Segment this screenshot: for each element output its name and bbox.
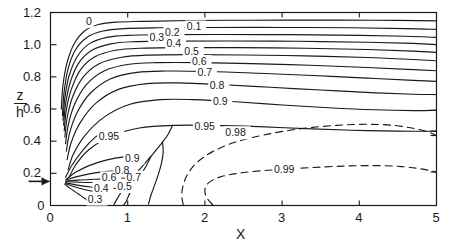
x-tick-label: 3: [278, 211, 285, 224]
contour-label-0.4-lower: 0.4: [94, 183, 109, 194]
contour-label-0.95-upper: 0.95: [194, 121, 214, 132]
contour-label-0: 0: [86, 16, 92, 27]
contour-label-0.6: 0.6: [192, 56, 207, 67]
contour-label-0.95-lower: 0.95: [99, 131, 119, 142]
x-tick-label: 5: [433, 211, 440, 224]
y-tick-label: 0.8: [23, 70, 41, 83]
y-tick-label: 1.0: [23, 38, 41, 51]
x-tick-label: 2: [201, 211, 208, 224]
plot-canvas: [0, 0, 451, 249]
y-tick-label: 0.6: [23, 102, 41, 115]
contour-label-0.9-lower: 0.9: [125, 153, 140, 164]
contour-line-0.5: [65, 55, 437, 138]
contour-label-0.4: 0.4: [167, 38, 182, 49]
x-axis-title: X: [236, 227, 245, 241]
contour-plot-figure: z h X 01234500.20.40.60.81.01.200.10.20.…: [0, 0, 451, 249]
x-tick-label: 1: [124, 211, 131, 224]
contour-label-0.98: 0.98: [225, 127, 245, 138]
contour-label-0.3: 0.3: [150, 32, 165, 43]
y-tick-label: 1.2: [23, 6, 41, 19]
contour-lines: [61, 15, 436, 206]
contour-line-0.99: [205, 166, 437, 205]
y-tick-label: 0: [37, 199, 44, 212]
contour-label-0.1: 0.1: [187, 21, 202, 32]
contour-line-0.98: [182, 124, 437, 204]
contour-label-0.8: 0.8: [210, 80, 225, 91]
contour-label-0.7: 0.7: [197, 67, 212, 78]
contour-label-0.2: 0.2: [165, 27, 180, 38]
contour-label-0.3-lower: 0.3: [88, 194, 103, 205]
x-tick-label: 4: [355, 211, 362, 224]
contour-line-0.8: [67, 83, 436, 160]
contour-line-0.3: [64, 41, 437, 125]
y-tick-label: 0.2: [23, 166, 41, 179]
y-tick-label: 0.4: [23, 134, 41, 147]
contour-line-0: [61, 20, 436, 109]
contour-label-0.9: 0.9: [213, 96, 228, 107]
arrow-head: [42, 177, 50, 185]
x-tick-label: 0: [47, 211, 54, 224]
contour-label-0.5-lower: 0.5: [117, 181, 132, 192]
contour-label-0.99: 0.99: [274, 164, 294, 175]
